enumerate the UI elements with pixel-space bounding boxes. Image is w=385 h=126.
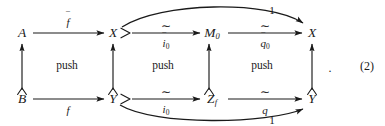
trailing-period: . bbox=[329, 62, 332, 74]
tilde-over-M0-to-X2: ∼ bbox=[260, 20, 270, 32]
region-label-push-middle: push bbox=[152, 60, 174, 72]
bar-accent-icon: ‾ bbox=[162, 32, 165, 42]
node-Zf-subscript: f bbox=[215, 97, 217, 107]
node-X-top-right-label: X bbox=[308, 25, 316, 40]
tilde-over-X1-to-M0: ∼ bbox=[161, 20, 171, 32]
arrow-label-Y1-to-Zf-subscript: 0 bbox=[166, 108, 170, 117]
node-A: A bbox=[18, 26, 26, 40]
node-X-top-left: X bbox=[109, 26, 117, 40]
region-label-push-right: push bbox=[251, 60, 273, 72]
tilde-over-Y1-to-Zf: ∼ bbox=[161, 86, 171, 98]
node-M0-label: M bbox=[204, 25, 215, 40]
bar-accent-icon: ‾ bbox=[261, 32, 264, 42]
node-Y-bottom-right: Y bbox=[308, 92, 316, 106]
node-Zf-label: Z bbox=[207, 91, 215, 106]
commutative-diagram: A X M0 X B Y Zf Y f ‾ ∼ i ‾ 0 ∼ bbox=[0, 0, 385, 126]
tail-hook-X1 bbox=[121, 28, 130, 38]
tilde-over-Zf-to-Y2: ∼ bbox=[260, 86, 270, 98]
arrow-label-B-to-Y1: f bbox=[66, 105, 69, 116]
arrow-label-Zf-to-Y2-base: q bbox=[262, 104, 268, 116]
node-Y-bottom-left-label: Y bbox=[109, 91, 117, 106]
node-B-label: B bbox=[18, 91, 26, 106]
region-label-push-left: push bbox=[56, 60, 78, 72]
curve-identity-bottom bbox=[120, 105, 303, 121]
node-Zf: Zf bbox=[207, 92, 217, 107]
node-X-top-right: X bbox=[308, 26, 316, 40]
curve-label-identity-bottom: 1 bbox=[269, 115, 275, 126]
node-X-top-left-label: X bbox=[109, 25, 117, 40]
arrow-label-B-to-Y1-base: f bbox=[66, 104, 69, 116]
node-Y-bottom-right-label: Y bbox=[308, 91, 316, 106]
equation-number: (2) bbox=[360, 60, 374, 72]
node-A-label: A bbox=[18, 25, 26, 40]
arrow-label-M0-to-X2: q ‾ 0 bbox=[260, 38, 269, 51]
accent-group-ibar: i ‾ bbox=[163, 38, 166, 49]
node-Y-bottom-left: Y bbox=[109, 92, 117, 106]
arrow-label-M0-to-X2-subscript: 0 bbox=[266, 42, 270, 51]
node-B: B bbox=[18, 92, 26, 106]
arrow-label-Zf-to-Y2: q bbox=[262, 105, 268, 116]
curve-label-identity-top: 1 bbox=[269, 5, 275, 16]
arrow-label-X1-to-M0-subscript: 0 bbox=[166, 42, 170, 51]
accent-group-fbar: f ‾ bbox=[66, 17, 69, 28]
arrow-label-A-to-X1: f ‾ bbox=[66, 17, 69, 28]
node-M0: M0 bbox=[204, 26, 220, 41]
node-M0-subscript: 0 bbox=[216, 31, 220, 41]
bar-accent-icon: ‾ bbox=[66, 11, 69, 21]
accent-group-qbar: q ‾ bbox=[260, 38, 266, 49]
tail-hook-Y1 bbox=[121, 94, 130, 104]
arrow-label-X1-to-M0: i ‾ 0 bbox=[163, 38, 170, 51]
arrow-label-Y1-to-Zf: i0 bbox=[163, 104, 170, 117]
